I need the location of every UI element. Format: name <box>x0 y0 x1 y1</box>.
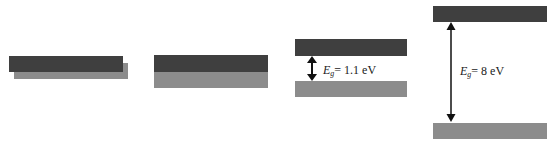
valence-band <box>433 123 547 139</box>
band-gap-value: = 8 eV <box>471 64 504 78</box>
conduction-band <box>9 56 123 72</box>
double-arrow-icon <box>306 56 318 82</box>
band-gap-value: = 1.1 eV <box>334 63 376 77</box>
conduction-band <box>295 39 407 56</box>
band-gap-label: Eg= 1.1 eV <box>323 64 376 78</box>
conduction-band <box>154 55 268 72</box>
valence-band <box>154 72 268 88</box>
valence-band <box>295 81 407 97</box>
conduction-band <box>433 6 547 22</box>
double-arrow-icon <box>445 22 457 123</box>
band-gap-label: Eg= 8 eV <box>460 65 504 79</box>
